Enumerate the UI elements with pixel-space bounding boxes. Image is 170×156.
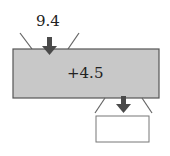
input-value: 9.4: [36, 14, 60, 29]
output-funnel-right: [142, 98, 152, 113]
input-funnel-left: [20, 33, 32, 49]
operation-label: +4.5: [67, 66, 103, 81]
input-funnel-right: [68, 33, 79, 49]
output-answer-box[interactable]: [96, 116, 149, 142]
output-funnel-left: [95, 98, 105, 113]
